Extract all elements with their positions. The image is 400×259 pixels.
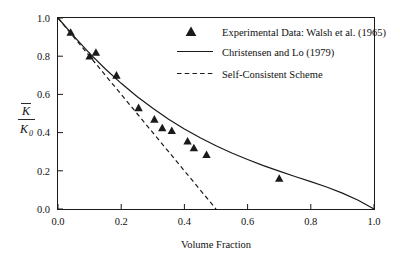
y-tick-label: 0.4: [37, 127, 51, 138]
x-tick-label: 0.2: [115, 216, 128, 227]
legend-label-self-consistent: Self-Consistent Scheme: [222, 69, 323, 80]
y-axis-title: K K 0: [18, 104, 35, 139]
y-tick-label: 0.6: [37, 89, 50, 100]
y-axis-tick-labels: 0.00.20.40.60.81.0: [37, 13, 51, 215]
chart-plot: 0.00.20.40.60.81.0 0.00.20.40.60.81.0 Vo…: [0, 0, 400, 259]
legend-label-experimental: Experimental Data: Walsh et al. (1965): [222, 27, 386, 39]
x-axis-tick-labels: 0.00.20.40.60.81.0: [51, 216, 380, 227]
x-axis-title: Volume Fraction: [181, 239, 252, 250]
x-tick-label: 0.6: [241, 216, 254, 227]
x-tick-label: 0.8: [304, 216, 317, 227]
y-tick-label: 1.0: [37, 13, 50, 24]
chart-container: 0.00.20.40.60.81.0 0.00.20.40.60.81.0 Vo…: [0, 0, 400, 259]
y-axis-denominator-subscript: 0: [29, 129, 33, 138]
x-tick-label: 0.4: [178, 216, 192, 227]
y-tick-label: 0.0: [37, 204, 50, 215]
y-axis-numerator: K: [21, 104, 31, 118]
y-tick-label: 0.8: [37, 51, 50, 62]
x-tick-label: 1.0: [367, 216, 380, 227]
y-axis-denominator: K: [19, 122, 29, 136]
x-tick-label: 0.0: [51, 216, 64, 227]
y-tick-label: 0.2: [37, 166, 50, 177]
legend-label-christensen-lo: Christensen and Lo (1979): [222, 47, 335, 59]
